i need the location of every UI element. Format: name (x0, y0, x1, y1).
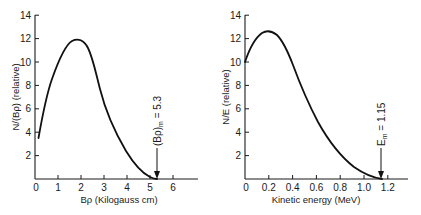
annotation-value: = 1.15 (376, 102, 387, 133)
tick-label: 0.2 (262, 182, 276, 193)
tick-label: 12 (230, 33, 242, 44)
right-x-axis-label: Kinetic energy (MeV) (272, 194, 361, 205)
tick-label: 4 (235, 127, 241, 138)
left-spectrum-curve (39, 40, 158, 179)
tick-label: 6 (25, 103, 31, 114)
right-x-tick-labels: 0 0.2 0.4 0.6 0.8 1.0 1.2 (243, 182, 395, 193)
left-y-tick-labels: 2 4 6 8 10 12 14 (20, 10, 32, 161)
tick-label: 6 (170, 182, 176, 193)
arrow-head-icon (154, 171, 160, 179)
tick-label: 10 (230, 57, 242, 68)
figure: 2 4 6 8 10 12 14 0 1 2 3 4 5 6 Bρ (Kilo (0, 0, 421, 215)
tick-label: 4 (124, 182, 130, 193)
svg-text:(Bρ)m = 5.3: (Bρ)m = 5.3 (152, 95, 164, 146)
tick-label: 5 (147, 182, 153, 193)
annotation-value: = 5.3 (152, 95, 163, 121)
left-endpoint-annotation: (Bρ)m = 5.3 (152, 95, 164, 179)
tick-label: 0 (33, 182, 39, 193)
tick-label: 2 (78, 182, 84, 193)
tick-label: 10 (20, 57, 32, 68)
tick-label: 3 (101, 182, 107, 193)
left-x-axis-label: Bρ (Kilogauss cm) (80, 194, 157, 205)
tick-label: 1 (55, 182, 61, 193)
right-chart: 2 4 6 8 10 12 14 0 0.2 0.4 0.6 0.8 1.0 1… (220, 10, 408, 205)
right-endpoint-annotation: Em = 1.15 (376, 102, 388, 179)
right-y-ticks (245, 15, 249, 155)
tick-label: 6 (235, 103, 241, 114)
right-y-axis-label: N/E (relative) (220, 69, 231, 124)
tick-label: 0.8 (333, 182, 347, 193)
tick-label: 1.2 (381, 182, 395, 193)
right-spectrum-curve (245, 31, 382, 179)
left-y-axis-label: N/(Bρ) (relative) (10, 63, 21, 130)
tick-label: 14 (230, 10, 242, 21)
left-chart: 2 4 6 8 10 12 14 0 1 2 3 4 5 6 Bρ (Kilo (10, 10, 198, 205)
tick-label: 1.0 (357, 182, 371, 193)
svg-text:Em = 1.15: Em = 1.15 (376, 102, 388, 146)
tick-label: 2 (235, 150, 241, 161)
tick-label: 4 (25, 127, 31, 138)
tick-label: 0 (243, 182, 249, 193)
tick-label: 8 (25, 80, 31, 91)
annotation-text: (Bρ) (152, 127, 163, 146)
right-y-tick-labels: 2 4 6 8 10 12 14 (230, 10, 242, 161)
tick-label: 8 (235, 80, 241, 91)
tick-label: 14 (20, 10, 32, 21)
tick-label: 0.6 (309, 182, 323, 193)
tick-label: 0.4 (286, 182, 300, 193)
tick-label: 2 (25, 150, 31, 161)
left-x-tick-labels: 0 1 2 3 4 5 6 (33, 182, 176, 193)
tick-label: 12 (20, 33, 32, 44)
